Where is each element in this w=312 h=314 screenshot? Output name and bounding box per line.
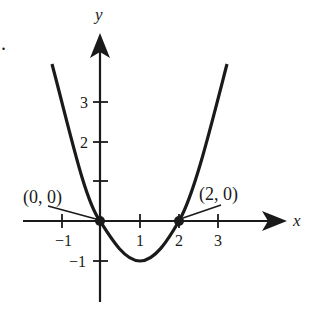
- point-label-origin: (0, 0): [23, 187, 62, 208]
- y-tick-label: −1: [69, 253, 86, 270]
- y-tick-label: 2: [80, 134, 88, 151]
- x-axis-label: x: [292, 211, 301, 230]
- point-label-2-0: (2, 0): [199, 184, 238, 205]
- x-tick-label: 3: [214, 232, 222, 249]
- leader-line-origin: [48, 206, 96, 219]
- x-tick-label: −1: [55, 232, 72, 249]
- x-tick-label: 1: [136, 232, 144, 249]
- x-axis: x −1 1 2 3: [23, 211, 301, 249]
- x-tick-label: 2: [175, 232, 183, 249]
- problem-marker: .: [1, 32, 6, 54]
- point-x-intercept-2: [174, 216, 184, 226]
- leader-line-2-0: [183, 205, 221, 218]
- parabola-figure: . x −1 1 2 3 y −1 2 3: [0, 0, 312, 314]
- point-origin: [95, 216, 105, 226]
- y-tick-label: 3: [80, 94, 88, 111]
- y-axis-label: y: [93, 5, 103, 24]
